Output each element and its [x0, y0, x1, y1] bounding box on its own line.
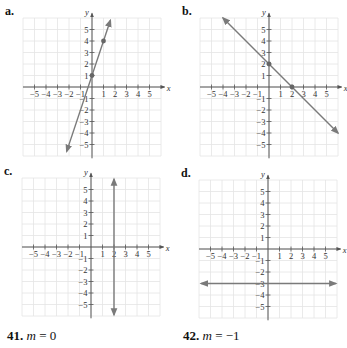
- svg-text:5: 5: [84, 25, 88, 35]
- svg-text:−5: −5: [256, 140, 265, 150]
- svg-text:−2: −2: [78, 265, 87, 275]
- svg-text:3: 3: [123, 249, 127, 259]
- plotted-point: [101, 39, 106, 44]
- svg-text:−5: −5: [78, 300, 87, 310]
- svg-text:−4: −4: [218, 89, 228, 99]
- svg-text:−5: −5: [206, 251, 215, 261]
- svg-text:−5: −5: [79, 140, 88, 150]
- svg-text:−4: −4: [41, 89, 51, 99]
- problem-42: 42. m = −1: [183, 328, 240, 344]
- svg-text:−4: −4: [217, 251, 227, 261]
- svg-text:−1: −1: [255, 256, 264, 266]
- svg-text:x: x: [165, 243, 170, 253]
- svg-text:1: 1: [261, 71, 265, 81]
- svg-text:−5: −5: [207, 89, 216, 99]
- svg-text:−5: −5: [29, 249, 38, 259]
- svg-text:b.: b.: [182, 4, 192, 18]
- svg-text:−3: −3: [53, 89, 62, 99]
- svg-text:5: 5: [83, 185, 87, 195]
- svg-text:d.: d.: [181, 166, 191, 180]
- svg-text:−3: −3: [78, 277, 87, 287]
- svg-text:2: 2: [290, 89, 294, 99]
- svg-text:−2: −2: [64, 89, 73, 99]
- svg-text:1: 1: [277, 251, 281, 261]
- svg-text:c.: c.: [4, 164, 12, 178]
- svg-text:4: 4: [135, 249, 140, 259]
- svg-text:x: x: [166, 83, 171, 93]
- svg-text:−1: −1: [256, 94, 265, 104]
- graph-panel-b: −5−4−3−2−11234554321−1−2−3−4−5xyb.: [182, 4, 347, 159]
- problem-41: 41. m = 0: [7, 328, 56, 344]
- svg-text:4: 4: [312, 251, 317, 261]
- slope-value: −1: [226, 328, 240, 343]
- svg-text:−3: −3: [52, 249, 61, 259]
- svg-text:−4: −4: [256, 128, 266, 138]
- slope-value: 0: [50, 328, 57, 343]
- svg-text:3: 3: [260, 210, 264, 220]
- problem-number: 41.: [7, 328, 23, 343]
- svg-text:5: 5: [147, 89, 151, 99]
- svg-text:2: 2: [289, 251, 293, 261]
- svg-text:2: 2: [113, 89, 117, 99]
- svg-text:2: 2: [260, 221, 264, 231]
- svg-text:1: 1: [260, 233, 264, 243]
- svg-text:−3: −3: [256, 117, 265, 127]
- svg-text:−1: −1: [78, 254, 87, 264]
- slope-var: m: [27, 328, 36, 343]
- graph-canvas: −5−4−3−2−11234554321−1−2−3−4−5xya.−5−4−3…: [0, 0, 347, 348]
- svg-text:1: 1: [83, 231, 87, 241]
- svg-text:3: 3: [300, 251, 304, 261]
- svg-text:5: 5: [324, 89, 328, 99]
- svg-text:−5: −5: [255, 302, 264, 312]
- svg-text:y: y: [260, 169, 265, 179]
- svg-text:1: 1: [101, 89, 105, 99]
- plotted-point: [290, 85, 295, 90]
- plotted-point: [90, 73, 95, 78]
- svg-text:y: y: [83, 167, 88, 177]
- svg-text:y: y: [84, 7, 89, 17]
- svg-text:−2: −2: [255, 267, 264, 277]
- graph-panel-d: −5−4−3−2−11234554321−1−2−3−4−5xyd.: [181, 166, 347, 321]
- svg-text:a.: a.: [5, 4, 14, 18]
- equals-sign: =: [39, 328, 46, 343]
- svg-text:x: x: [343, 83, 347, 93]
- svg-text:−4: −4: [78, 288, 88, 298]
- svg-text:5: 5: [146, 249, 150, 259]
- svg-text:−4: −4: [79, 128, 89, 138]
- svg-text:−2: −2: [241, 89, 250, 99]
- svg-text:3: 3: [83, 208, 87, 218]
- svg-text:y: y: [261, 7, 266, 17]
- svg-text:−4: −4: [255, 290, 265, 300]
- svg-text:−2: −2: [256, 105, 265, 115]
- svg-text:−4: −4: [40, 249, 50, 259]
- svg-text:5: 5: [323, 251, 327, 261]
- svg-text:1: 1: [100, 249, 104, 259]
- plotted-point: [267, 62, 272, 67]
- svg-text:−2: −2: [240, 251, 249, 261]
- svg-text:−2: −2: [63, 249, 72, 259]
- svg-text:3: 3: [84, 48, 88, 58]
- svg-text:−5: −5: [30, 89, 39, 99]
- graph-panel-c: −5−4−3−2−11234554321−1−2−3−4−5xyc.: [4, 164, 170, 319]
- svg-text:2: 2: [84, 59, 88, 69]
- svg-text:−3: −3: [79, 117, 88, 127]
- graph-panel-a: −5−4−3−2−11234554321−1−2−3−4−5xya.: [5, 4, 171, 159]
- svg-text:2: 2: [83, 219, 87, 229]
- svg-text:5: 5: [261, 25, 265, 35]
- svg-text:4: 4: [136, 89, 141, 99]
- problem-number: 42.: [183, 328, 199, 343]
- svg-text:−3: −3: [229, 251, 238, 261]
- svg-text:3: 3: [124, 89, 128, 99]
- svg-text:1: 1: [278, 89, 282, 99]
- svg-text:x: x: [342, 245, 347, 255]
- svg-text:5: 5: [260, 187, 264, 197]
- slope-var: m: [203, 328, 212, 343]
- svg-text:−3: −3: [230, 89, 239, 99]
- equals-sign: =: [215, 328, 222, 343]
- svg-text:4: 4: [313, 89, 318, 99]
- svg-text:1: 1: [84, 71, 88, 81]
